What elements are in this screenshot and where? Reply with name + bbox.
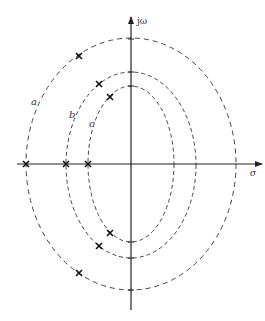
- horizontal-axis-label: σ: [250, 168, 256, 178]
- pole-locus-diagram: [0, 0, 265, 321]
- pole-x-icon: [76, 270, 82, 276]
- curve-c-label: c: [89, 118, 95, 129]
- pole-x-icon: [96, 81, 102, 87]
- pole-x-icon: [107, 94, 113, 100]
- curve-a-label: a: [31, 96, 37, 107]
- vertical-axis-label: jω: [137, 16, 147, 26]
- pole-x-icon: [107, 230, 113, 236]
- pole-x-icon: [96, 243, 102, 249]
- curve-b-label: b: [69, 109, 75, 120]
